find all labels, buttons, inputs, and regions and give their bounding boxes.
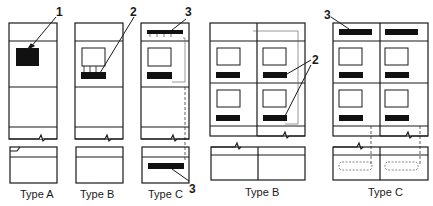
callout-3-double: 3 bbox=[324, 8, 331, 22]
caption-type-c-double: Type C bbox=[368, 186, 403, 198]
panel-type-c-double bbox=[331, 17, 428, 180]
panel-type-c bbox=[141, 19, 189, 183]
caption-type-b-single: Type B bbox=[80, 188, 114, 200]
meter-block bbox=[16, 48, 39, 66]
panel-type-b bbox=[75, 17, 134, 183]
caption-type-b-double: Type B bbox=[245, 186, 279, 198]
callout-3-top: 3 bbox=[185, 5, 192, 19]
callout-2-single: 2 bbox=[130, 5, 137, 19]
callout-3-bottom: 3 bbox=[189, 182, 196, 196]
callout-1: 1 bbox=[56, 5, 63, 19]
panel-type-a bbox=[9, 17, 57, 183]
cabinet-diagram: 1 Type A 2 Type B bbox=[0, 0, 433, 206]
caption-type-c-single: Type C bbox=[148, 188, 183, 200]
callout-2-double: 2 bbox=[312, 53, 319, 67]
caption-type-a: Type A bbox=[20, 188, 54, 200]
panel-type-b-double bbox=[210, 23, 311, 180]
